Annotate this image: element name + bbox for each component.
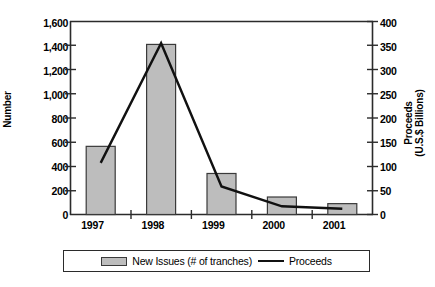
x-axis-label-1999: 1999 [188, 219, 238, 231]
bar-series [86, 44, 357, 214]
bar-1997 [86, 146, 115, 214]
legend-item-new-issues: New Issues (# of tranches) [101, 255, 252, 267]
legend-label-new-issues: New Issues (# of tranches) [132, 255, 252, 267]
legend-item-proceeds: Proceeds [258, 255, 332, 267]
legend-bar-swatch-icon [101, 257, 127, 266]
chart-legend: New Issues (# of tranches) Proceeds [63, 250, 370, 272]
legend-label-proceeds: Proceeds [289, 255, 332, 267]
chart-figure: Number Proceeds (U.S.$ Billions) 1,600 1… [0, 0, 435, 287]
x-axis-label-2001: 2001 [309, 219, 359, 231]
x-axis-label-2000: 2000 [249, 219, 299, 231]
line-series-proceeds [101, 43, 343, 209]
x-axis-label-1998: 1998 [128, 219, 178, 231]
x-axis-label-1997: 1997 [68, 219, 118, 231]
bar-1999 [207, 173, 236, 214]
plot-area [0, 0, 435, 287]
legend-line-swatch-icon [258, 260, 284, 262]
